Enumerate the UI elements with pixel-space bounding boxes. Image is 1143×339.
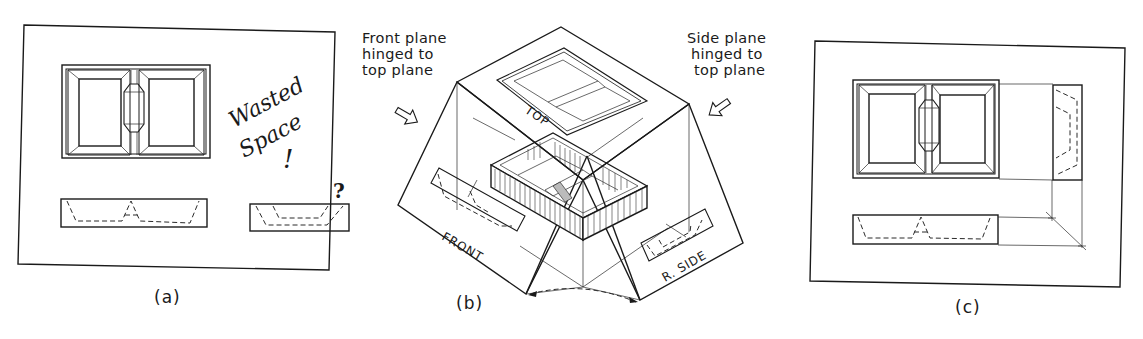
panel-b-caption: (b) xyxy=(456,293,483,313)
multiview-projection-figure: Wasted Space ! ? (a) Front plane hinged … xyxy=(0,0,1143,339)
side-note-line2: hinged to xyxy=(691,46,763,62)
panel-b: Front plane hinged to top plane Side pla… xyxy=(362,27,766,313)
side-arrow-icon xyxy=(705,95,734,122)
top-plane xyxy=(457,27,689,180)
panel-a-front-view xyxy=(61,199,207,227)
panel-c-front-view xyxy=(853,215,998,244)
isometric-object xyxy=(491,133,647,240)
panel-a-top-view xyxy=(62,65,210,158)
front-note-line3: top plane xyxy=(362,62,433,78)
panel-c: (c) xyxy=(810,41,1125,317)
arc-arrowhead-left-icon xyxy=(528,291,537,297)
panel-c-top-view xyxy=(853,80,999,178)
exclaim-mark: ! xyxy=(283,144,293,174)
front-arrow-icon xyxy=(393,103,422,129)
front-note-line1: Front plane xyxy=(362,30,447,46)
panel-a: Wasted Space ! ? (a) xyxy=(18,25,349,307)
top-plane-view: TOP xyxy=(497,48,647,135)
side-note-line3: top plane xyxy=(694,62,765,78)
front-note-line2: hinged to xyxy=(362,46,434,62)
front-plane-label: FRONT xyxy=(440,229,486,264)
side-plane-view: R. SIDE xyxy=(641,209,713,285)
side-note-line1: Side plane xyxy=(687,30,766,46)
question-mark: ? xyxy=(333,179,345,203)
arc-arrowhead-right-icon xyxy=(629,297,638,303)
panel-c-caption: (c) xyxy=(955,297,981,317)
top-plane-label: TOP xyxy=(521,102,552,129)
panel-a-caption: (a) xyxy=(154,287,181,307)
projection-lines xyxy=(457,82,689,300)
panel-c-side-view xyxy=(1053,85,1082,180)
panel-a-side-view-misplaced xyxy=(250,204,349,231)
